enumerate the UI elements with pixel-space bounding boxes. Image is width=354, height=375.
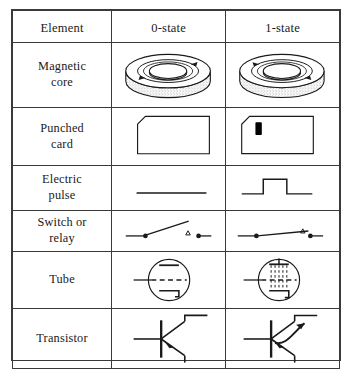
header-label-one-state: 1-state [265, 21, 300, 35]
element-label-punched-card: Punched card [13, 121, 111, 153]
magnetic-core-one-icon [226, 43, 339, 107]
zero-state-cell-punched-card [112, 108, 226, 166]
table-row: Transistor [13, 309, 340, 369]
element-cell-electric-pulse: Electric pulse [13, 166, 112, 211]
element-label-switch-relay: Switch or relay [13, 215, 111, 247]
header-cell-zero-state: 0-state [112, 11, 226, 43]
element-cell-magnetic-core: Magnetic core [13, 43, 112, 108]
element-label-magnetic-core: Magnetic core [13, 59, 111, 91]
element-label-transistor: Transistor [13, 331, 111, 347]
one-state-cell-switch-relay [226, 211, 340, 252]
element-states-table: Element 0-state 1-state Magnetic core [11, 9, 341, 361]
one-state-cell-transistor [226, 309, 340, 369]
punched-hole [256, 122, 262, 135]
switch-open-icon [112, 211, 225, 251]
header-label-element: Element [41, 21, 84, 35]
zero-state-cell-tube [112, 252, 226, 309]
table-row: Punched card [13, 108, 340, 166]
one-state-cell-magnetic-core [226, 43, 340, 108]
header-label-zero-state: 0-state [151, 21, 186, 35]
electric-pulse-zero-icon [112, 166, 225, 210]
vacuum-tube-on-icon [226, 252, 339, 308]
one-state-cell-punched-card [226, 108, 340, 166]
zero-state-cell-transistor [112, 309, 226, 369]
table-row: Magnetic core [13, 43, 340, 108]
transistor-on-icon [226, 309, 339, 368]
table-row: Tube [13, 252, 340, 309]
switch-closed-icon [226, 211, 339, 251]
vacuum-tube-off-icon [112, 252, 225, 308]
element-label-tube: Tube [13, 272, 111, 288]
magnetic-core-zero-icon [112, 43, 225, 107]
zero-state-cell-switch-relay [112, 211, 226, 252]
table-row: Electric pulse [13, 166, 340, 211]
zero-state-cell-magnetic-core [112, 43, 226, 108]
states-table: Element 0-state 1-state Magnetic core [12, 10, 340, 369]
one-state-cell-tube [226, 252, 340, 309]
header-cell-one-state: 1-state [226, 11, 340, 43]
element-cell-switch-relay: Switch or relay [13, 211, 112, 252]
table-header-row: Element 0-state 1-state [13, 11, 340, 43]
element-label-electric-pulse: Electric pulse [13, 172, 111, 204]
header-cell-element: Element [13, 11, 112, 43]
one-state-cell-electric-pulse [226, 166, 340, 211]
transistor-off-icon [112, 309, 225, 368]
table-row: Switch or relay [13, 211, 340, 252]
element-cell-tube: Tube [13, 252, 112, 309]
element-cell-punched-card: Punched card [13, 108, 112, 166]
punched-card-one-icon [226, 108, 339, 165]
punched-card-zero-icon [112, 108, 225, 165]
element-cell-transistor: Transistor [13, 309, 112, 369]
electric-pulse-one-icon [226, 166, 339, 210]
zero-state-cell-electric-pulse [112, 166, 226, 211]
